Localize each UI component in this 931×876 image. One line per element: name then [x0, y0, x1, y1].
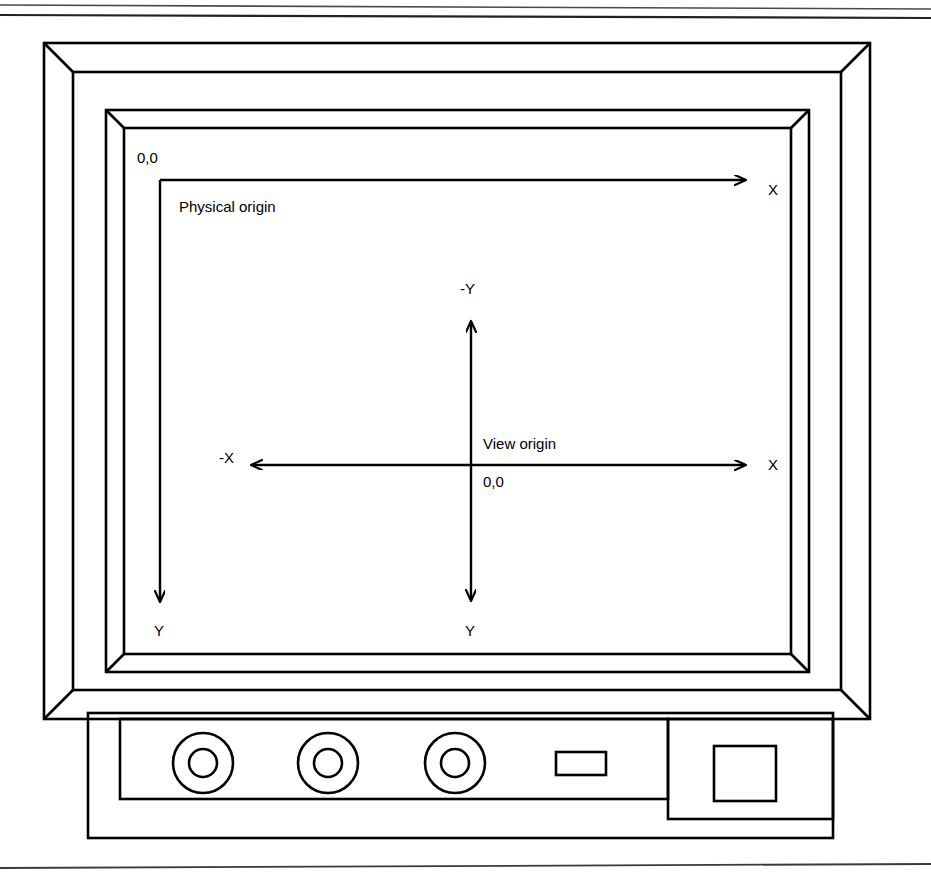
monitor-outer-bezel — [44, 43, 870, 719]
physical-y-axis-label: Y — [154, 623, 164, 638]
view-origin-caption: View origin — [483, 436, 556, 451]
monitor-inner-bezel — [106, 110, 809, 672]
knob-1[interactable] — [173, 733, 233, 793]
screen-bevel-br — [791, 654, 809, 672]
knob-3-inner-ring-icon — [441, 749, 469, 777]
top-rule-1 — [0, 5, 931, 9]
bevel-corner-tl — [44, 43, 73, 72]
outer-bezel-inner-outline — [73, 72, 841, 690]
physical-origin-coords-label: 0,0 — [137, 150, 158, 165]
physical-axes — [160, 180, 745, 601]
base-controls — [173, 733, 776, 801]
view-y-negative-axis-label: -Y — [460, 281, 475, 296]
knob-1-outer-ring-icon — [173, 733, 233, 793]
outer-bezel-outline — [44, 43, 870, 719]
inner-bezel-outline — [106, 110, 809, 672]
knob-1-inner-ring-icon — [189, 749, 217, 777]
slot-indicator-icon[interactable] — [556, 752, 606, 775]
knob-3[interactable] — [425, 733, 485, 793]
view-x-negative-axis-label: -X — [219, 450, 234, 465]
knob-2-outer-ring-icon — [298, 733, 358, 793]
knob-3-outer-ring-icon — [425, 733, 485, 793]
control-panel-recess — [120, 719, 668, 799]
monitor-diagram — [0, 0, 931, 876]
physical-x-axis-label: X — [768, 182, 778, 197]
view-axes — [252, 322, 745, 600]
view-y-positive-axis-label: Y — [465, 623, 475, 638]
square-button[interactable] — [714, 746, 776, 801]
knob-2-inner-ring-icon — [314, 749, 342, 777]
bevel-corner-bl — [44, 690, 73, 719]
screen-bevel-tl — [106, 110, 124, 128]
knob-2[interactable] — [298, 733, 358, 793]
screen-bevel-tr — [791, 110, 809, 128]
bevel-corner-br — [841, 690, 870, 719]
bevel-corner-tr — [841, 43, 870, 72]
bottom-rule — [0, 864, 931, 868]
screen-bevel-bl — [106, 654, 124, 672]
top-rule-2 — [0, 15, 931, 18]
figure-page: 0,0 Physical origin X Y -Y View origin 0… — [0, 0, 931, 876]
physical-origin-caption: Physical origin — [179, 199, 276, 214]
view-x-positive-axis-label: X — [768, 457, 778, 472]
base-right-section — [668, 719, 833, 819]
view-origin-coords-label: 0,0 — [483, 474, 504, 489]
